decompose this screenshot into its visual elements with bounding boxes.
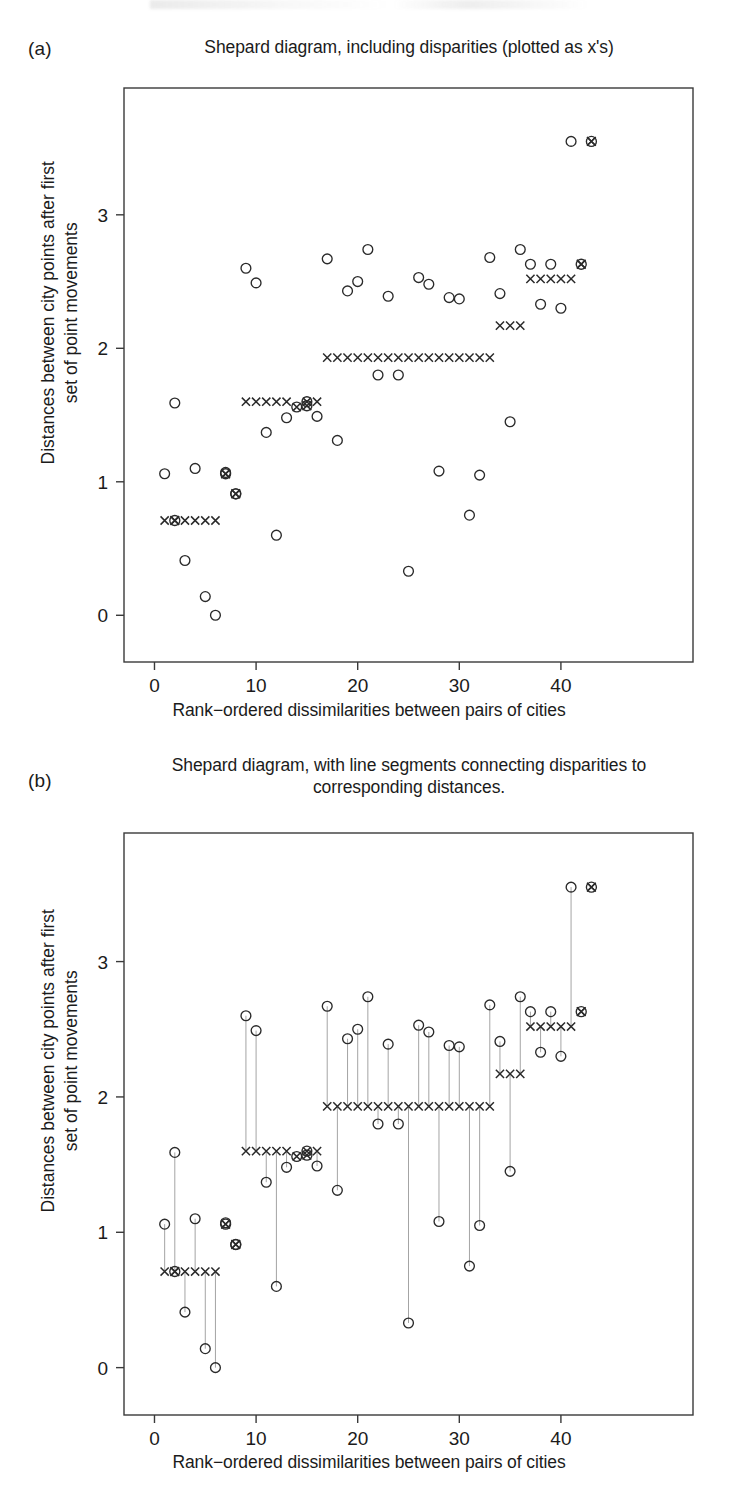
disparity-markers [161, 137, 596, 524]
distance-o-marker [241, 263, 251, 273]
distance-o-marker [556, 303, 566, 313]
disparity-x-marker [465, 354, 473, 362]
distance-o-marker [566, 136, 576, 146]
disparity-x-marker [252, 398, 260, 406]
disparity-x-marker [354, 354, 362, 362]
disparity-x-marker [242, 398, 250, 406]
overlaid-x [577, 1007, 586, 1016]
disparity-x-marker [293, 1152, 301, 1160]
y-tick-label: 0 [97, 1358, 108, 1379]
distance-o-marker [495, 289, 505, 299]
y-tick-label: 3 [97, 952, 108, 973]
overlaid-x [587, 883, 596, 892]
disparity-x-marker [496, 322, 504, 330]
distance-o-marker [363, 245, 373, 255]
distance-o-marker [343, 286, 353, 296]
y-tick-label: 2 [97, 1087, 108, 1108]
x-tick-label: 40 [550, 675, 571, 696]
overlaid-x [577, 260, 586, 269]
distance-o-marker [261, 428, 271, 438]
overlaid-markers [170, 882, 597, 1276]
disparity-x-marker [506, 322, 514, 330]
x-tick-label: 40 [550, 1428, 571, 1449]
panel-b-plot: 0102030400123 [0, 740, 738, 1492]
disparity-x-marker [425, 354, 433, 362]
distance-o-marker [200, 592, 210, 602]
x-tick-label: 20 [347, 675, 368, 696]
distance-o-marker [454, 294, 464, 304]
disparity-x-marker [567, 275, 575, 283]
disparity-x-marker [435, 354, 443, 362]
disparity-x-marker [323, 354, 331, 362]
distance-o-marker [505, 417, 515, 427]
panel-b: (b) Shepard diagram, with line segments … [0, 740, 738, 1492]
distance-o-marker [515, 245, 525, 255]
overlaid-x [170, 516, 179, 525]
distance-markers [160, 136, 576, 620]
distance-o-marker [404, 566, 414, 576]
distance-o-marker [251, 278, 261, 288]
distance-o-marker [312, 411, 322, 421]
distance-o-marker [211, 610, 221, 620]
disparity-markers [161, 883, 596, 1276]
disparity-x-marker [394, 354, 402, 362]
distance-o-marker [170, 398, 180, 408]
segments-group [165, 887, 571, 1367]
distance-o-marker [546, 259, 556, 269]
disparity-x-marker [455, 354, 463, 362]
distance-o-marker [160, 469, 170, 479]
distance-o-marker [434, 466, 444, 476]
distance-o-marker [190, 464, 200, 474]
disparity-x-marker [445, 354, 453, 362]
panel-a-plot: 0102030400123 [0, 0, 738, 740]
distance-o-marker [526, 259, 536, 269]
distance-o-marker [180, 556, 190, 566]
disparity-x-marker [201, 516, 209, 524]
overlaid-markers [170, 136, 597, 525]
distance-o-marker [332, 436, 342, 446]
disparity-x-marker [364, 354, 372, 362]
distance-o-marker [485, 253, 495, 263]
x-tick-label: 30 [449, 675, 470, 696]
distance-o-marker [322, 254, 332, 264]
y-tick-label: 1 [97, 472, 108, 493]
y-tick-label: 1 [97, 1222, 108, 1243]
disparity-x-marker [536, 275, 544, 283]
x-tick-label: 0 [149, 1428, 160, 1449]
disparity-x-marker [161, 516, 169, 524]
disparity-x-marker [262, 398, 270, 406]
figure-page: (a) Shepard diagram, including dispariti… [0, 0, 738, 1492]
distance-o-marker [373, 370, 383, 380]
distance-o-marker [465, 510, 475, 520]
distance-markers [160, 882, 576, 1372]
disparity-x-marker [526, 275, 534, 283]
x-tick-label: 10 [246, 1428, 267, 1449]
disparity-x-marker [547, 275, 555, 283]
disparity-x-marker [415, 354, 423, 362]
panel-a: (a) Shepard diagram, including dispariti… [0, 0, 738, 740]
distance-o-marker [353, 277, 363, 287]
distance-o-marker [536, 299, 546, 309]
disparity-x-marker [486, 354, 494, 362]
disparity-x-marker [557, 275, 565, 283]
disparity-x-marker [476, 354, 484, 362]
disparity-x-marker [384, 354, 392, 362]
disparity-x-marker [516, 322, 524, 330]
y-tick-label: 3 [97, 205, 108, 226]
distance-o-marker [282, 413, 292, 423]
x-tick-label: 20 [347, 1428, 368, 1449]
disparity-x-marker [282, 398, 290, 406]
distance-o-marker [414, 273, 424, 283]
x-tick-label: 0 [149, 675, 160, 696]
disparity-x-marker [404, 354, 412, 362]
x-tick-label: 10 [246, 675, 267, 696]
disparity-x-marker [191, 516, 199, 524]
overlaid-x [231, 489, 240, 498]
distance-o-marker [272, 530, 282, 540]
distance-o-marker [444, 293, 454, 303]
distance-o-marker [383, 291, 393, 301]
disparity-x-marker [293, 403, 301, 411]
distance-o-marker [475, 470, 485, 480]
overlaid-x [231, 1240, 240, 1249]
disparity-x-marker [313, 398, 321, 406]
